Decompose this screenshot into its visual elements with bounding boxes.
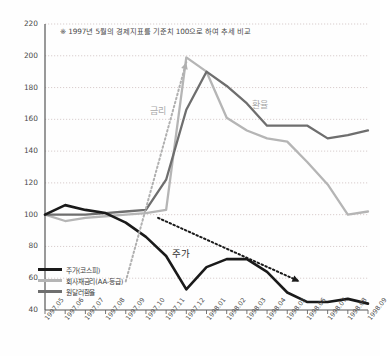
y-axis-tick-label: 100: [12, 210, 38, 219]
legend-swatch-icon: [38, 290, 62, 293]
chart-note: ※ 1997년 5월의 경제지표를 기준치 100으로 하여 추세 비교: [60, 26, 251, 36]
annotation-stock-label: 주가: [172, 246, 190, 260]
y-axis-tick-label: 220: [12, 19, 38, 28]
y-axis-tick-label: 60: [12, 273, 38, 282]
legend-label: 주가(코스피): [66, 265, 100, 275]
y-axis-tick-label: 180: [12, 83, 38, 92]
trend-arrows: [126, 62, 300, 281]
y-axis-tick-label: 40: [12, 305, 38, 314]
y-axis-tick-label: 200: [12, 51, 38, 60]
chart-legend: 주가(코스피)회사채금리(AA-등급)원달러환율: [38, 264, 123, 297]
legend-item[interactable]: 주가(코스피): [38, 264, 123, 275]
legend-item[interactable]: 원달러환율: [38, 286, 123, 297]
y-axis-tick-label: 120: [12, 178, 38, 187]
annotation-rate-label: 금리: [150, 104, 166, 117]
legend-label: 원달러환율: [66, 287, 95, 297]
annotation-fx-label: 환율: [252, 98, 268, 111]
legend-item[interactable]: 회사채금리(AA-등급): [38, 275, 123, 286]
legend-swatch-icon: [38, 268, 62, 271]
series-line: [45, 57, 368, 221]
legend-label: 회사채금리(AA-등급): [66, 276, 123, 286]
series-line: [45, 72, 368, 215]
y-axis-tick-label: 140: [12, 146, 38, 155]
y-axis-tick-label: 80: [12, 241, 38, 250]
gridlines: [45, 24, 368, 278]
y-axis-tick-label: 160: [12, 114, 38, 123]
legend-swatch-icon: [38, 279, 62, 282]
